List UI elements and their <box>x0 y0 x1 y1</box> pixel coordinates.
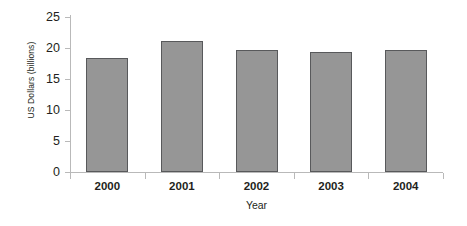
bar <box>310 52 352 172</box>
bar <box>236 50 278 172</box>
bar <box>385 50 427 172</box>
x-axis-tick-label: 2000 <box>70 180 145 193</box>
y-axis-tick-mark <box>65 110 71 111</box>
x-axis-tick-label: 2004 <box>368 180 443 193</box>
x-axis-tick-mark <box>368 173 369 179</box>
x-axis-tick-label: 2002 <box>219 180 294 193</box>
y-axis-tick-mark <box>65 79 71 80</box>
bar <box>86 58 128 172</box>
x-axis-tick-mark <box>70 173 71 179</box>
x-axis-tick-label: 2003 <box>294 180 369 193</box>
x-axis-tick-mark <box>145 173 146 179</box>
y-axis-tick-mark <box>65 17 71 18</box>
y-axis-tick-mark <box>65 141 71 142</box>
x-axis-title: Year <box>70 199 443 212</box>
x-axis-tick-mark <box>294 173 295 179</box>
y-axis-tick-mark <box>65 172 71 173</box>
x-axis-tick-label: 2001 <box>145 180 220 193</box>
x-axis-tick-mark <box>443 173 444 179</box>
bar-chart: US Dollars (billions) 0510152025 2000200… <box>0 0 467 226</box>
bar <box>161 41 203 172</box>
x-axis-tick-mark <box>219 173 220 179</box>
y-axis-tick-mark <box>65 48 71 49</box>
plot-area: 20002001200220032004 <box>0 0 467 226</box>
